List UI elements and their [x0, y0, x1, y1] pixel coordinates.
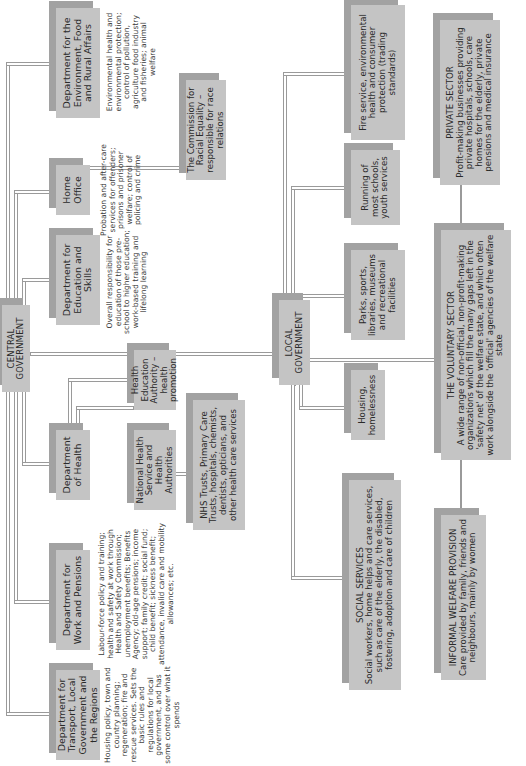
hea-label: Health Education Authority – health prom… — [131, 353, 179, 407]
nhs-trusts-box: NHS Trusts, Primary Care Trusts, hospita… — [193, 400, 245, 530]
local-government-box: LOCAL GOVERNMENT — [279, 300, 310, 385]
schools-label: Running of most schools, youth services — [361, 153, 390, 222]
connector-central-to-dwp — [14, 388, 18, 604]
connector-fire-drop — [283, 72, 351, 76]
schools-box: Running of most schools, youth services — [351, 150, 400, 225]
connector-nhs-to-trusts — [175, 472, 193, 476]
connector-doh-branch — [68, 378, 72, 430]
fire-service-label: Fire service, environmental health and c… — [359, 8, 398, 137]
connector-parks-drop — [299, 294, 351, 298]
dept-dtlr-label: Department for Transport, Local Governme… — [57, 673, 99, 757]
private-sector-text: Profit-making businesses providing priva… — [456, 23, 495, 182]
dept-home-office-label: Home Office — [62, 168, 83, 212]
connector-local-to-schools — [291, 186, 295, 304]
connector-central-to-doh — [22, 388, 26, 466]
dept-dfes-box: Department for Education and Skills — [56, 235, 100, 325]
dept-health-box: Department of Health — [56, 430, 90, 500]
connector-schools-drop — [291, 186, 351, 190]
hea-box: Health Education Authority – health prom… — [134, 350, 176, 410]
social-services-text: Social workers, home helps and care serv… — [365, 483, 394, 687]
connector-local-to-fire — [283, 72, 287, 304]
nhs-box: National Health Service and Health Autho… — [134, 430, 176, 510]
dept-dwp-description: Labour-force policy and training; health… — [98, 520, 175, 668]
dept-dtlr-description: Housing policy, town and country plannin… — [104, 666, 181, 764]
dept-home-office-description: Probation and after-care services for of… — [100, 144, 143, 236]
connector-central-to-dtlr — [6, 388, 10, 716]
dept-dwp-box: Department for Work and Pensions — [56, 550, 90, 650]
private-sector-box: PRIVATE SECTOR Profit-making businesses … — [440, 20, 500, 185]
connector-doh-nhs-drop — [76, 406, 134, 410]
connector-doh-hea-drop — [68, 378, 134, 382]
informal-welfare-text: Care provided by family, friends and nei… — [459, 518, 478, 677]
local-government-label: LOCAL GOVERNMENT — [285, 303, 304, 382]
nhs-label: National Health Service and Health Autho… — [136, 433, 175, 507]
fire-service-box: Fire service, environmental health and c… — [351, 5, 405, 140]
dept-dtlr-box: Department for Transport, Local Governme… — [56, 670, 100, 760]
dept-dfes-label: Department for Education and Skills — [62, 238, 94, 322]
connector-dfes-drop — [22, 278, 56, 282]
connector-voluntary-to-private — [460, 184, 462, 230]
dept-defra-label: Department for the Environment, Food and… — [62, 11, 94, 115]
cre-box: The Commission for Racial Equality – res… — [186, 80, 226, 180]
connector-defra-drop — [6, 62, 56, 66]
dept-home-office-box: Home Office — [56, 165, 90, 215]
connector-doh-drop — [22, 462, 56, 466]
housing-box: Housing, homelessness — [351, 370, 385, 440]
voluntary-sector-text: A wide range of non-official, non-profit… — [457, 233, 505, 457]
connector-central-to-home — [14, 190, 18, 308]
connector-dwp-drop — [14, 600, 56, 604]
welfare-provision-diagram: CENTRAL GOVERNMENT Department for the En… — [0, 0, 526, 766]
central-government-box: CENTRAL GOVERNMENT — [2, 305, 30, 392]
social-services-box: SOCIAL SERVICES Social workers, home hel… — [349, 480, 401, 690]
dept-dwp-label: Department for Work and Pensions — [62, 553, 83, 647]
connector-dtlr-drop — [6, 712, 56, 716]
connector-social-drop — [291, 576, 349, 580]
central-government-label: CENTRAL GOVERNMENT — [7, 308, 26, 389]
housing-label: Housing, homelessness — [358, 373, 377, 437]
connector-housing-drop — [299, 406, 351, 410]
dept-defra-description: Environmental health and environmental p… — [106, 8, 157, 116]
nhs-trusts-label: NHS Trusts, Primary Care Trusts, hospita… — [200, 403, 239, 527]
dept-dfes-description: Overall responsibility for education of … — [106, 228, 149, 336]
connector-local-to-social — [291, 380, 295, 580]
connector-central-to-dfes — [22, 278, 26, 308]
parks-box: Parks, sports, libraries, museums and re… — [351, 250, 405, 340]
cre-label: The Commission for Racial Equality – res… — [187, 83, 226, 177]
connector-voluntary-to-informal — [460, 458, 462, 516]
voluntary-sector-box: THE VOLUNTARY SECTOR A wide range of non… — [441, 230, 511, 460]
connector-central-to-defra — [6, 62, 10, 308]
informal-welfare-box: INFORMAL WELFARE PROVISION Care provided… — [441, 515, 486, 680]
connector-home-drop — [14, 190, 56, 194]
connector-local-to-voluntary — [308, 358, 442, 362]
parks-label: Parks, sports, libraries, museums and re… — [359, 253, 398, 337]
dept-defra-box: Department for the Environment, Food and… — [56, 8, 100, 118]
dept-health-label: Department of Health — [62, 433, 83, 497]
